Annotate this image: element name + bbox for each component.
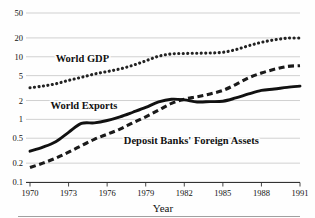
series-label-world-gdp: World GDP xyxy=(56,53,110,64)
x-axis-tick-labels: 19701973197619791982198519881991 xyxy=(22,188,309,198)
x-tick-label-1985: 1985 xyxy=(214,188,231,198)
x-tick-label-1982: 1982 xyxy=(176,188,193,198)
y-axis-tick-labels: 0.10.20.5125102050 xyxy=(12,8,23,187)
y-tick-label-0.1: 0.1 xyxy=(12,177,23,187)
y-tick-label-5: 5 xyxy=(19,71,23,81)
chart-figure: 0.10.20.5125102050 197019731976197919821… xyxy=(0,0,315,218)
x-tick-label-1979: 1979 xyxy=(137,188,154,198)
x-tick-label-1991: 1991 xyxy=(292,188,309,198)
gridlines xyxy=(26,13,300,182)
y-tick-label-20: 20 xyxy=(15,33,24,43)
x-tick-label-1976: 1976 xyxy=(99,188,116,198)
x-axis xyxy=(26,183,300,187)
series-label-deposit-banks-foreign-assets: Deposit Banks' Foreign Assets xyxy=(124,135,259,146)
x-axis-title: Year xyxy=(153,202,174,214)
log-line-chart: 0.10.20.5125102050 197019731976197919821… xyxy=(0,0,315,218)
y-tick-label-10: 10 xyxy=(15,52,24,62)
x-tick-label-1970: 1970 xyxy=(22,188,39,198)
y-tick-label-0.5: 0.5 xyxy=(12,133,23,143)
y-tick-label-2: 2 xyxy=(19,96,23,106)
y-tick-label-50: 50 xyxy=(15,8,24,18)
x-tick-label-1973: 1973 xyxy=(60,188,77,198)
x-tick-label-1988: 1988 xyxy=(253,188,270,198)
y-tick-label-1: 1 xyxy=(19,114,23,124)
y-tick-label-0.2: 0.2 xyxy=(12,158,23,168)
series-label-world-exports: World Exports xyxy=(51,100,118,111)
